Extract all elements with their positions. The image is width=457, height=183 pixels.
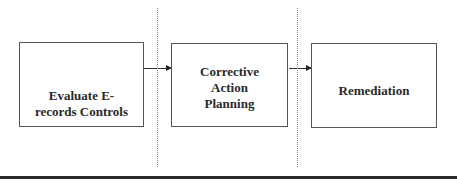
arrow-right-icon bbox=[289, 68, 311, 69]
phase-divider bbox=[157, 8, 158, 167]
step-remediation: Remediation bbox=[311, 43, 437, 128]
step-label: Evaluate E- records Controls bbox=[35, 88, 128, 120]
step-evaluate-erecords-controls: Evaluate E- records Controls bbox=[19, 42, 144, 127]
step-label: Corrective Action Planning bbox=[200, 64, 259, 112]
step-label: Remediation bbox=[339, 83, 410, 99]
process-flow-diagram: Evaluate E- records Controls Corrective … bbox=[0, 0, 457, 183]
bottom-rule-divider bbox=[0, 176, 457, 179]
step-corrective-action-planning: Corrective Action Planning bbox=[171, 43, 288, 127]
phase-divider bbox=[297, 8, 298, 167]
